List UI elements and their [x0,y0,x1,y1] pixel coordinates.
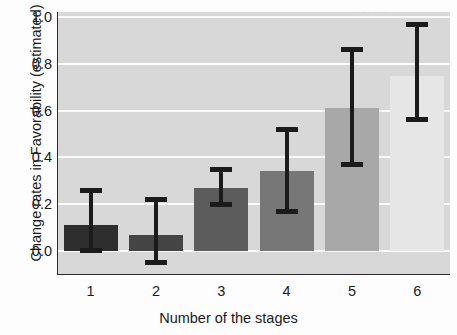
error-bar-3 [194,167,248,207]
error-bar-cap-bottom [341,162,363,167]
x-tick-label-5: 5 [332,284,372,299]
y-axis-line [57,12,58,274]
x-tick-label-4: 4 [267,284,307,299]
x-tick-label-1: 1 [71,284,111,299]
error-bar-cap-bottom [276,209,298,214]
x-tick-label-2: 2 [136,284,176,299]
bar-chart-figure: ............ 1.00.80.60.40.20.0 Number o… [0,0,457,335]
x-axis-title: Number of the stages [0,310,457,326]
error-bar-cap-bottom [80,248,102,253]
x-axis-line [57,274,450,275]
error-bar-5 [325,47,379,166]
y-axis-title: Change rates in Favorability (estimated) [28,0,44,273]
error-bar-cap-bottom [210,202,232,207]
error-bar-stem [154,197,158,265]
error-bar-2 [129,197,183,265]
error-bar-cap-top [341,47,363,52]
error-bar-cap-top [80,188,102,193]
error-bar-stem [350,47,354,166]
error-bar-cap-bottom [406,117,428,122]
error-bar-6 [390,22,444,123]
error-bar-cap-top [210,167,232,172]
error-bar-stem [89,188,93,254]
plot-area [58,12,450,274]
error-bar-4 [260,127,314,214]
y-axis-tick-labels: 1.00.80.60.40.20.0 [0,0,52,335]
error-bar-stem [415,22,419,123]
x-tick-label-6: 6 [397,284,437,299]
error-bar-stem [285,127,289,214]
x-tick-label-3: 3 [201,284,241,299]
error-bar-1 [64,188,118,254]
error-bar-cap-bottom [145,260,167,265]
gridline [58,16,450,18]
error-bar-cap-top [145,197,167,202]
error-bar-cap-top [276,127,298,132]
error-bar-cap-top [406,22,428,27]
